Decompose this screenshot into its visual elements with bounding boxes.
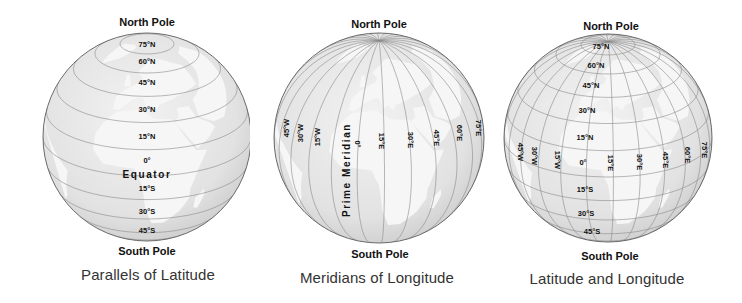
panel-meridians: North Pole 45°W30°W15°W0°15°E30°E45°E60°… [250,0,500,303]
longitude-label: 0° [353,140,362,147]
panel-parallels: North Pole 75°N60°N45°N30°N15°N0°15°S30°… [0,0,250,303]
latitude-label: 30°S [139,207,155,216]
longitude-label: 75°E [700,142,709,158]
south-pole-label: South Pole [118,245,175,257]
panel-lat-long: North Pole 75°N60°N45°N30°N15°N15°S30°S4… [495,0,742,303]
longitude-label: 45°W [516,143,525,162]
latitude-label: 15°S [139,184,155,193]
equator-label: Equator [123,169,172,180]
latitude-label: 30°S [578,209,594,218]
latitude-label: 60°N [139,57,156,66]
latitude-label: 0° [143,156,150,165]
latitude-label: 30°N [579,106,596,115]
latitude-label: 45°S [139,226,155,235]
longitude-label: 30°W [530,147,539,166]
longitude-label: 15°W [313,127,322,146]
south-pole-label: South Pole [581,250,638,262]
longitude-label: 45°E [432,130,441,146]
latitude-label: 45°N [583,81,600,90]
longitude-label: 45°W [282,118,291,137]
longitude-label: 0° [579,158,586,167]
prime-meridian-label: Prime Meridian [341,123,352,217]
latitude-label: 75°N [139,40,156,49]
latitude-label: 75°N [593,42,610,51]
latitude-label: 30°N [139,105,156,114]
longitude-label: 15°E [377,133,386,149]
latitude-label: 45°S [584,227,600,236]
longitude-label: 30°E [635,154,644,170]
south-pole-label: South Pole [351,248,408,260]
caption-meridians: Meridians of Longitude [300,269,454,286]
caption-parallels: Parallels of Latitude [81,266,215,283]
latitude-label: 15°N [577,133,594,142]
longitude-label: 30°W [296,123,305,142]
latitude-label: 15°N [139,132,156,141]
longitude-label: 45°E [661,152,670,168]
caption-lat-long: Latitude and Longitude [530,270,685,287]
globe-parallels: 75°N60°N45°N30°N15°N0°15°S30°S45°SEquato… [0,0,250,303]
longitude-label: 60°E [455,125,464,141]
longitude-label: 15°W [553,151,562,170]
longitude-label: 60°E [683,147,692,163]
latitude-label: 15°S [577,185,593,194]
longitude-label: 75°E [474,120,483,136]
latitude-label: 45°N [139,78,156,87]
longitude-label: 30°E [406,132,415,148]
longitude-label: 15°E [606,155,615,171]
latitude-label: 60°N [588,61,605,70]
